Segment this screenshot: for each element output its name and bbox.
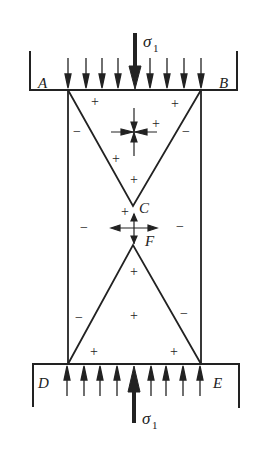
- label-E: E: [212, 375, 222, 391]
- sign-markers: + + + + + + + + + + − − − − − −: [73, 94, 190, 359]
- stress-zone-diagram: σ 1 σ 1 A B C F D E: [0, 0, 262, 456]
- svg-text:+: +: [171, 96, 179, 111]
- svg-text:−: −: [75, 310, 83, 325]
- top-sigma-label: σ: [143, 32, 152, 51]
- svg-text:−: −: [182, 124, 190, 139]
- svg-text:−: −: [176, 219, 184, 234]
- label-D: D: [37, 375, 49, 391]
- svg-text:−: −: [180, 306, 188, 321]
- svg-text:+: +: [121, 204, 129, 219]
- svg-text:+: +: [130, 308, 138, 323]
- svg-text:−: −: [73, 124, 81, 139]
- top-sigma-subscript: 1: [153, 42, 159, 54]
- svg-text:+: +: [130, 264, 138, 279]
- stress-element-upper: [111, 108, 157, 156]
- svg-text:−: −: [80, 220, 88, 235]
- svg-text:+: +: [90, 344, 98, 359]
- svg-text:+: +: [91, 94, 99, 109]
- svg-text:+: +: [170, 344, 178, 359]
- svg-text:+: +: [112, 151, 120, 166]
- label-A: A: [37, 75, 48, 91]
- svg-text:+: +: [130, 172, 138, 187]
- bottom-sigma-arrow: [128, 366, 140, 423]
- top-sigma-arrow: [129, 33, 141, 89]
- label-B: B: [219, 75, 228, 91]
- label-F: F: [144, 233, 155, 249]
- bottom-sigma-label: σ: [142, 409, 151, 428]
- svg-text:+: +: [152, 116, 160, 131]
- label-C: C: [139, 200, 150, 216]
- bottom-sigma-subscript: 1: [152, 419, 158, 431]
